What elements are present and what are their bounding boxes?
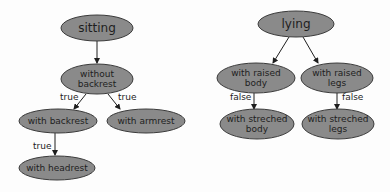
- edges-group: truetruetruefalsefalse: [33, 37, 364, 155]
- node-label: backrest: [78, 79, 117, 89]
- edge-label: true: [60, 92, 79, 102]
- node-with-streched-legs: with strechedlegs: [302, 109, 374, 139]
- node-with-streched-body: with strechedbody: [220, 109, 294, 139]
- node-label: with armrest: [117, 116, 175, 126]
- edge-label: true: [118, 92, 137, 102]
- edge-label: false: [230, 92, 252, 102]
- node-with-headrest: with headrest: [19, 156, 95, 180]
- edge-label: false: [342, 92, 364, 102]
- node-with-backrest: with backrest: [19, 109, 97, 133]
- node-with-armrest: with armrest: [107, 109, 185, 133]
- node-label: with streched: [307, 114, 368, 124]
- node-label: without: [80, 69, 114, 79]
- edge-lying-to-with-raised-body: [273, 37, 289, 63]
- node-lying: lying: [258, 11, 334, 37]
- node-label: body: [245, 78, 268, 88]
- node-label: with headrest: [26, 163, 88, 173]
- edge-lying-to-with-raised-legs: [303, 37, 318, 63]
- node-label: body: [246, 124, 269, 134]
- decision-tree-diagram: truetruetruefalsefalse sittingwithoutbac…: [0, 0, 390, 192]
- edge-label: true: [33, 141, 52, 151]
- node-label: sitting: [78, 21, 116, 35]
- diagram-svg: truetruetruefalsefalse sittingwithoutbac…: [0, 0, 390, 192]
- edge-with-raised-legs-to-with-streched-legs: false: [337, 92, 364, 109]
- node-label: legs: [329, 124, 348, 134]
- node-sitting: sitting: [61, 15, 133, 41]
- node-without-backrest: withoutbackrest: [61, 64, 133, 94]
- arrow-icon: [273, 37, 289, 63]
- edge-without-backrest-to-with-backrest: true: [60, 92, 86, 109]
- edge-without-backrest-to-with-armrest: true: [108, 92, 137, 109]
- node-label: lying: [282, 17, 311, 31]
- node-with-raised-legs: with raisedlegs: [301, 63, 373, 93]
- node-label: with streched: [226, 114, 287, 124]
- node-label: with backrest: [28, 116, 89, 126]
- node-label: with raised: [312, 68, 362, 78]
- edge-with-backrest-to-with-headrest: true: [33, 133, 55, 155]
- edge-with-raised-body-to-with-streched-body: false: [230, 92, 254, 109]
- node-with-raised-body: with raisedbody: [217, 63, 295, 93]
- node-label: legs: [328, 78, 347, 88]
- node-label: with raised: [231, 68, 281, 78]
- arrow-icon: [303, 37, 318, 63]
